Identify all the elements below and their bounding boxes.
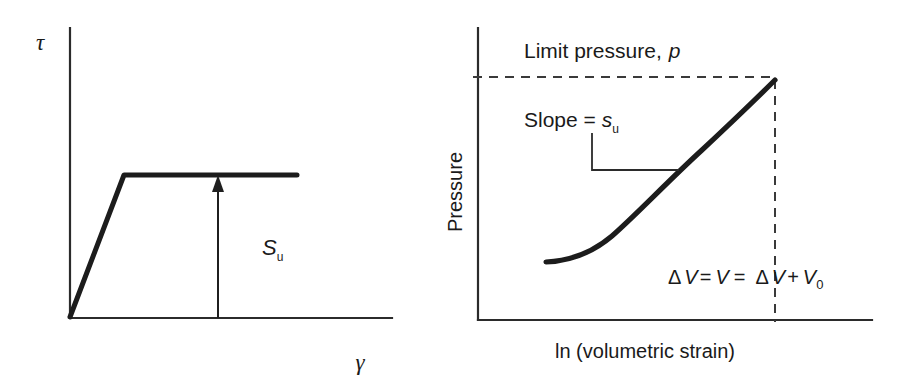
eq-equals-1: =	[700, 266, 712, 288]
eq-v-subscript: 0	[816, 277, 823, 292]
eq-v-3: V	[772, 266, 787, 288]
shear-stress-strain-chart: τ γ Su	[0, 0, 440, 391]
slope-leader-line	[592, 133, 679, 170]
eq-v-1: V	[684, 266, 699, 288]
eq-delta-1: Δ	[668, 266, 681, 288]
limit-pressure-symbol: p	[668, 39, 681, 62]
right-x-axis-label: ln (volumetric strain)	[555, 340, 735, 362]
figure-root: τ γ Su Pressure ln (volumetric strain) L…	[0, 0, 910, 391]
slope-symbol: s	[602, 108, 613, 131]
limit-pressure-text: Limit pressure,	[524, 39, 662, 62]
eq-plus: +	[787, 266, 799, 288]
pressuremeter-chart: Pressure ln (volumetric strain) Limit pr…	[440, 0, 910, 391]
limit-pressure-label: Limit pressure,p	[524, 39, 680, 62]
slope-label: Slope =su	[524, 108, 619, 136]
eq-delta-2: Δ	[755, 266, 768, 288]
su-annotation: Su	[262, 235, 283, 264]
left-x-axis-label: γ	[355, 350, 365, 375]
volume-equation: ΔV=V=ΔV+V0	[668, 266, 823, 292]
slope-subscript: u	[612, 122, 619, 136]
su-subscript: u	[277, 250, 284, 264]
su-symbol: S	[262, 235, 277, 260]
right-y-axis-label: Pressure	[444, 152, 466, 232]
su-arrow-head-icon	[212, 175, 224, 192]
left-y-axis-label: τ	[36, 30, 45, 55]
eq-equals-2: =	[734, 266, 746, 288]
eq-v-2: V	[715, 266, 730, 288]
slope-text: Slope =	[524, 108, 596, 131]
